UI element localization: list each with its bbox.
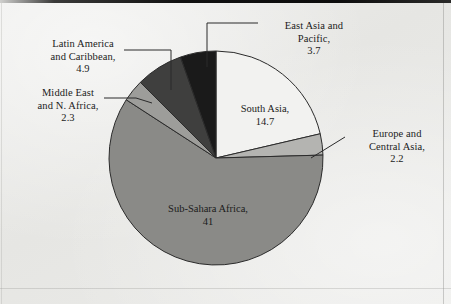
pie-chart: East Asia and Pacific, 3.7 Latin America… bbox=[0, 0, 451, 304]
slice-label-sub-sahara-africa: Sub-Sahara Africa, 41 bbox=[143, 203, 273, 228]
chart-page: East Asia and Pacific, 3.7 Latin America… bbox=[0, 0, 451, 304]
slice-label-south-asia: South Asia, 14.7 bbox=[217, 103, 313, 128]
slice-label-east-asia-and-pacific: East Asia and Pacific, 3.7 bbox=[262, 20, 366, 58]
slice-label-middle-east-and-n-africa: Middle East and N. Africa, 2.3 bbox=[14, 87, 122, 125]
pie-slice-group bbox=[109, 51, 323, 265]
slice-label-latin-america-and-caribbean: Latin America and Caribbean, 4.9 bbox=[24, 38, 142, 76]
slice-label-europe-and-central-asia: Europe and Central Asia, 2.2 bbox=[349, 128, 445, 166]
